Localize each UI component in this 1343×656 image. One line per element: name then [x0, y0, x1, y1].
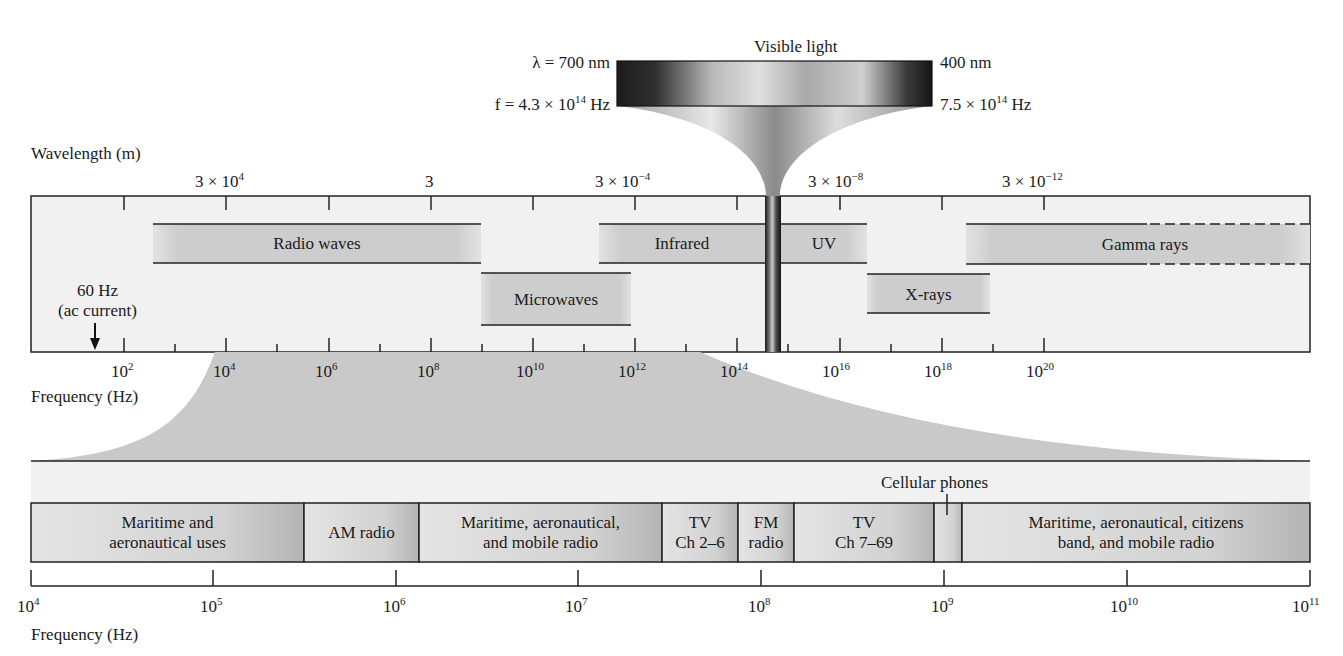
frequency-tick-label: 1012 [618, 363, 646, 380]
lower-frequency-tick-label: 105 [200, 598, 223, 615]
segment-am-radio: AM radio [304, 503, 419, 562]
band-infrared: Infrared [599, 235, 765, 252]
segment-cellular-phones [934, 503, 962, 562]
wavelength-tick-label: 3 × 10−4 [595, 173, 650, 190]
frequency-tick-label: 108 [417, 363, 440, 380]
lower-frequency-tick-label: 1010 [1110, 598, 1138, 615]
band-microwaves: Microwaves [481, 291, 631, 308]
visible-light-title: Visible light [754, 38, 838, 55]
wavelength-400nm-label: 400 nm [940, 54, 991, 71]
wavelength-700nm-label: λ = 700 nm [510, 54, 610, 71]
cellular-phones-label: Cellular phones [881, 474, 988, 491]
wavelength-tick-label: 3 [425, 173, 434, 190]
visible-light-bar [617, 61, 932, 106]
lower-frequency-tick-label: 104 [17, 598, 40, 615]
frequency-tick-label: 1010 [516, 363, 544, 380]
frequency-tick-label: 106 [315, 363, 338, 380]
lower-frequency-tick-label: 107 [565, 598, 588, 615]
lower-frequency-tick-label: 1011 [1292, 598, 1320, 615]
wavelength-tick-label: 3 × 10−8 [808, 173, 863, 190]
frequency-tick-label: 1016 [822, 363, 850, 380]
segment-fm-radio: FMradio [738, 503, 794, 562]
lower-frequency-tick-label: 106 [383, 598, 406, 615]
upper-chart-frame [31, 196, 1310, 352]
frequency-axis-label-upper: Frequency (Hz) [31, 388, 138, 405]
lower-frequency-tick-label: 109 [931, 598, 954, 615]
frequency-low-visible-label: f = 4.3 × 1014 Hz [450, 96, 610, 113]
band-x-rays: X-rays [867, 286, 990, 303]
frequency-tick-label: 102 [111, 363, 134, 380]
frequency-tick-label: 1020 [1026, 363, 1054, 380]
visible-light-funnel [617, 106, 932, 196]
visible-light-stem [765, 196, 781, 352]
wavelength-axis-label: Wavelength (m) [31, 145, 141, 162]
wavelength-tick-label: 3 × 104 [195, 173, 244, 190]
wavelength-tick-label: 3 × 10−12 [1002, 173, 1063, 190]
segment-maritime-mobile: Maritime, aeronautical,and mobile radio [419, 503, 662, 562]
segment-tv-ch7-69: TVCh 7–69 [794, 503, 934, 562]
frequency-tick-label: 1014 [720, 363, 748, 380]
ac-current-annotation-line1: 60 Hz [40, 282, 155, 299]
frequency-high-visible-label: 7.5 × 1014 Hz [940, 96, 1031, 113]
frequency-ticks-lower [31, 570, 1310, 586]
segment-tv-ch2-6: TVCh 2–6 [662, 503, 738, 562]
frequency-tick-label: 1018 [924, 363, 952, 380]
segment-maritime-aeronautical: Maritime andaeronautical uses [31, 503, 304, 562]
frequency-axis-label-lower: Frequency (Hz) [31, 626, 138, 643]
segment-maritime-citizens-band: Maritime, aeronautical, citizensband, an… [962, 503, 1310, 562]
band-radio-waves: Radio waves [153, 235, 481, 252]
lower-frequency-tick-label: 108 [748, 598, 771, 615]
band-uv: UV [781, 235, 867, 252]
band-gamma-rays: Gamma rays [1020, 236, 1270, 253]
ac-current-annotation-line2: (ac current) [40, 302, 155, 319]
frequency-tick-label: 104 [213, 363, 236, 380]
